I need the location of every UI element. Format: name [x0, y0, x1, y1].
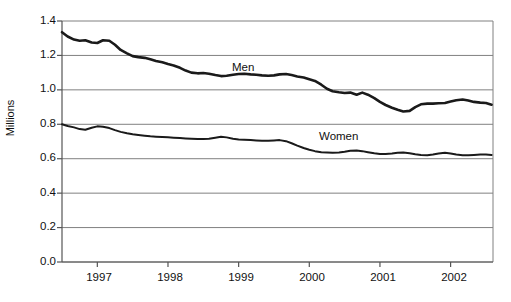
- axis-lines: [62, 21, 493, 262]
- series-line-men: [62, 32, 492, 111]
- series-line-women: [62, 124, 492, 155]
- axis-ticks: [57, 21, 451, 267]
- gridlines: [62, 21, 493, 262]
- line-chart: Millions 1.4 1.2 1.0 0.8 0.6 0.4 0.2 0.0…: [0, 0, 511, 302]
- plot-area: [0, 0, 511, 302]
- data-lines: [62, 32, 492, 155]
